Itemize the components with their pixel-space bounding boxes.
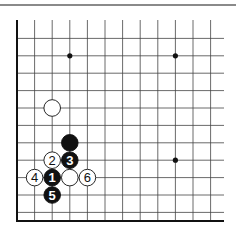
move-number: 4 [31, 170, 38, 185]
star-point [173, 158, 178, 163]
star-point [67, 53, 72, 58]
white-stone [44, 100, 61, 117]
black-stone [62, 135, 79, 152]
move-number: 1 [49, 170, 56, 185]
move-number: 3 [66, 153, 73, 168]
star-point [173, 53, 178, 58]
go-board: 234165 [0, 0, 236, 233]
move-number: 2 [49, 153, 56, 168]
move-number: 6 [84, 170, 91, 185]
move-number: 5 [49, 188, 56, 203]
white-stone [62, 169, 79, 186]
